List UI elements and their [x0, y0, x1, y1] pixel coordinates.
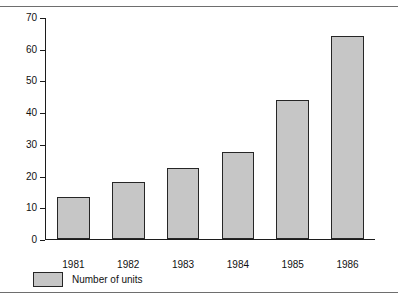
- y-tick-label: 70: [26, 13, 37, 23]
- x-tick-label-1985: 1985: [265, 259, 320, 270]
- bar-slot-1986: [320, 18, 375, 239]
- y-tick-label: 50: [26, 76, 37, 86]
- top-rule: [0, 6, 398, 7]
- legend-swatch-number-of-units: [33, 272, 63, 287]
- bar-1984: [222, 152, 255, 239]
- y-tick-label: 0: [31, 235, 37, 245]
- bar-slot-1981: [46, 18, 101, 239]
- y-tick-label: 10: [26, 203, 37, 213]
- legend-label: Number of units: [72, 274, 143, 285]
- y-tick-mark: [40, 208, 45, 209]
- header-text-remnant: [110, 0, 260, 5]
- y-tick-mark: [40, 145, 45, 146]
- chart-page: 010203040506070 198119821983198419851986…: [0, 0, 398, 303]
- y-tick-label: 60: [26, 45, 37, 55]
- y-tick-mark: [40, 18, 45, 19]
- bar-slot-1984: [211, 18, 266, 239]
- y-tick-mark: [40, 240, 45, 241]
- y-tick-mark: [40, 113, 45, 114]
- x-tick-label-1983: 1983: [156, 259, 211, 270]
- legend: Number of units: [33, 272, 143, 287]
- bar-1983: [167, 168, 200, 239]
- bottom-rule: [0, 292, 398, 293]
- y-tick-label: 30: [26, 140, 37, 150]
- x-tick-label-1981: 1981: [46, 259, 101, 270]
- y-tick-mark: [40, 50, 45, 51]
- bar-1982: [112, 182, 145, 239]
- x-axis-tick-labels: 198119821983198419851986: [46, 259, 375, 270]
- y-tick-label: 20: [26, 172, 37, 182]
- y-tick-mark: [40, 81, 45, 82]
- bar-slot-1985: [265, 18, 320, 239]
- x-tick-label-1982: 1982: [101, 259, 156, 270]
- bar-1981: [57, 197, 90, 239]
- y-tick-mark: [40, 177, 45, 178]
- bar-1986: [331, 36, 364, 239]
- y-tick-label: 40: [26, 108, 37, 118]
- bar-1985: [276, 100, 309, 239]
- x-axis-line: [45, 239, 375, 240]
- bar-slot-1983: [156, 18, 211, 239]
- plot-area: 010203040506070 198119821983198419851986: [45, 18, 375, 240]
- bar-slot-1982: [101, 18, 156, 239]
- x-tick-label-1984: 1984: [211, 259, 266, 270]
- x-tick-label-1986: 1986: [320, 259, 375, 270]
- bar-group: [46, 18, 375, 239]
